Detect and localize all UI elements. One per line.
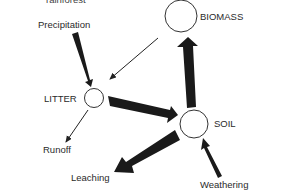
- litter-node: [85, 89, 104, 108]
- weathering-label: Weathering: [200, 180, 248, 190]
- biomass-node: [165, 0, 197, 32]
- flow-soil-biomass: [177, 37, 198, 108]
- soil-label: SOIL: [214, 119, 236, 129]
- soil-node: [180, 110, 208, 138]
- leaching-label: Leaching: [71, 173, 110, 183]
- flow-biomass-litter: [110, 38, 158, 79]
- runoff-label: Runoff: [43, 145, 71, 155]
- flow-litter-runoff: [66, 110, 88, 142]
- flow-precipitation-litter: [72, 32, 93, 87]
- biomass-label: BIOMASS: [200, 12, 243, 22]
- litter-label: LITTER: [44, 94, 77, 104]
- flow-soil-leaching: [114, 130, 180, 173]
- flow-weathering-soil: [201, 138, 222, 178]
- precipitation-label: Precipitation: [38, 20, 90, 30]
- flow-litter-soil: [108, 96, 178, 123]
